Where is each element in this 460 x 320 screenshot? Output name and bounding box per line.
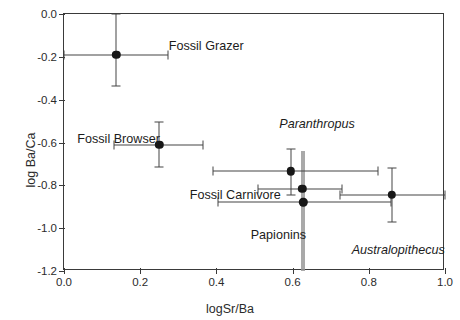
- x-tick-label: 1.0: [437, 276, 453, 288]
- y-tick: [59, 185, 65, 186]
- y-tick-label: 0.0: [41, 8, 57, 20]
- y-error-cap: [155, 122, 164, 123]
- x-tick-label: 0.2: [132, 276, 148, 288]
- vertical-reference-line: [301, 151, 305, 271]
- y-error-cap: [112, 85, 121, 86]
- x-tick-label: 0.4: [208, 276, 224, 288]
- y-tick-label: -0.4: [37, 94, 57, 106]
- x-axis-title: logSr/Ba: [0, 302, 460, 316]
- x-error-cap: [64, 50, 65, 59]
- point-label: Australopithecus: [352, 244, 445, 257]
- data-point-marker: [286, 167, 294, 175]
- x-error-cap: [212, 167, 213, 176]
- x-tick: [140, 268, 141, 274]
- x-error-bar: [213, 171, 379, 172]
- y-error-cap: [286, 194, 295, 195]
- point-label: Fossil Carnivore: [190, 189, 281, 202]
- point-label: Fossil Grazer: [169, 40, 244, 53]
- y-tick-label: -0.2: [37, 51, 57, 63]
- y-error-cap: [155, 167, 164, 168]
- figure-scatter-plot: log Ba/Ca logSr/Ba 0.0-0.2-0.4-0.6-0.8-1…: [0, 0, 460, 320]
- data-point-marker: [299, 198, 307, 206]
- y-tick: [59, 100, 65, 101]
- x-error-cap: [340, 190, 341, 199]
- x-error-cap: [445, 190, 446, 199]
- y-tick: [59, 228, 65, 229]
- x-tick: [445, 268, 446, 274]
- x-tick: [369, 268, 370, 274]
- x-tick-label: 0.0: [56, 276, 72, 288]
- y-tick-label: -1.0: [37, 222, 57, 234]
- y-tick: [59, 14, 65, 15]
- x-error-cap: [378, 167, 379, 176]
- x-tick: [216, 268, 217, 274]
- data-point-marker: [387, 191, 395, 199]
- y-tick-label: -1.2: [37, 265, 57, 277]
- plot-area: 0.0-0.2-0.4-0.6-0.8-1.0-1.20.00.20.40.60…: [63, 13, 444, 270]
- x-tick-label: 0.6: [285, 276, 301, 288]
- y-tick-label: -0.8: [37, 179, 57, 191]
- point-label: Fossil Browser: [77, 133, 160, 146]
- y-tick-label: -0.6: [37, 137, 57, 149]
- x-error-cap: [203, 140, 204, 149]
- y-tick: [59, 143, 65, 144]
- data-point-marker: [112, 50, 120, 58]
- y-error-cap: [387, 221, 396, 222]
- y-error-cap: [286, 148, 295, 149]
- x-tick: [293, 268, 294, 274]
- y-error-cap: [387, 168, 396, 169]
- y-error-cap: [112, 14, 121, 15]
- x-error-cap: [342, 184, 343, 193]
- x-tick-label: 0.8: [361, 276, 377, 288]
- point-label: Papionins: [251, 229, 306, 242]
- point-label: Paranthropus: [279, 118, 355, 131]
- x-tick: [64, 268, 65, 274]
